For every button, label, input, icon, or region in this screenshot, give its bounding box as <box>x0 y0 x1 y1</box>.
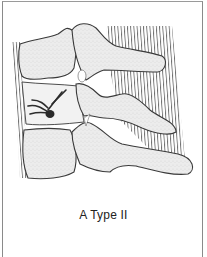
lower-vertebral-body <box>23 129 76 179</box>
neural-foramen <box>78 70 86 82</box>
nerve-ganglion <box>46 110 55 118</box>
figure-caption: A Type II <box>0 208 207 222</box>
spine-illustration <box>0 0 207 190</box>
upper-vertebral-body <box>19 28 76 79</box>
